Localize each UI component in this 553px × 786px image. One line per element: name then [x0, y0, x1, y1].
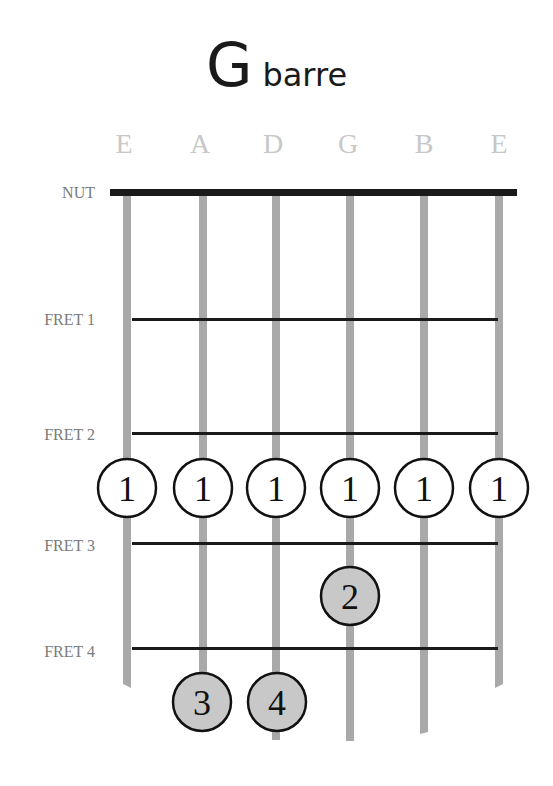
- finger-dot: 1: [174, 459, 232, 517]
- barre-dots: 1 1 1 1 1 1: [98, 459, 528, 517]
- fret-3: [132, 542, 498, 545]
- strings: [123, 193, 503, 741]
- finger-dot-3: 3: [173, 673, 231, 731]
- fret-4: [132, 647, 498, 650]
- svg-text:1: 1: [267, 469, 285, 509]
- finger-dot-4: 4: [248, 673, 306, 731]
- finger-dot: 1: [247, 459, 305, 517]
- fret-1: [132, 318, 498, 321]
- svg-text:2: 2: [341, 577, 359, 617]
- svg-text:3: 3: [193, 683, 211, 723]
- nut: [110, 189, 517, 196]
- finger-dot: 1: [470, 459, 528, 517]
- string-a: [199, 193, 207, 703]
- svg-text:1: 1: [341, 469, 359, 509]
- finger-dot-2: 2: [321, 567, 379, 625]
- string-low-e: [123, 193, 131, 688]
- finger-dot: 1: [321, 459, 379, 517]
- string-high-e: [495, 193, 503, 688]
- finger-dot: 1: [395, 459, 453, 517]
- svg-text:1: 1: [194, 469, 212, 509]
- svg-text:1: 1: [118, 469, 136, 509]
- svg-text:1: 1: [415, 469, 433, 509]
- finger-dot: 1: [98, 459, 156, 517]
- svg-text:1: 1: [490, 469, 508, 509]
- svg-text:4: 4: [268, 683, 286, 723]
- fretboard: 1 1 1 1 1 1 2 3 4: [0, 0, 553, 786]
- fret-2: [132, 432, 498, 435]
